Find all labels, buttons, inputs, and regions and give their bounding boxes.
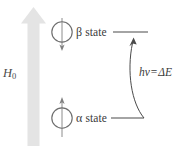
alpha-state-label: α state (76, 112, 107, 125)
beta-state-label-text: state (85, 26, 107, 38)
nmr-energy-level-diagram: H0 β state α state hν=ΔE (0, 0, 189, 149)
photon-energy-term: hν (139, 66, 150, 78)
magnetic-field-label-symbol: H (3, 66, 12, 80)
beta-state-symbol: β (76, 25, 82, 39)
magnetic-field-label: H0 (3, 67, 16, 80)
magnetic-field-label-subscript: 0 (12, 71, 16, 81)
delta-energy-term: ΔE (158, 66, 172, 78)
alpha-state-label-text: state (85, 112, 107, 124)
alpha-state-symbol: α (76, 111, 82, 125)
beta-state-label: β state (76, 26, 107, 39)
transition-energy-label: hν=ΔE (139, 67, 172, 79)
